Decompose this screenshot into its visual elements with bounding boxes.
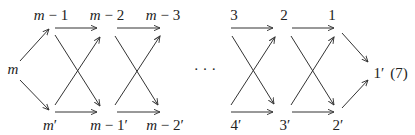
node-3-prime: 3′ — [280, 117, 291, 133]
node-1-prime: 1′ — [374, 65, 385, 81]
node-m-prime: m′ — [43, 117, 57, 133]
node-1: 1 — [328, 7, 336, 23]
arrow-n1-to-n1p — [342, 33, 368, 62]
arrow-m-to-mp — [20, 80, 49, 110]
node-m-minus-3: m − 3 — [146, 7, 180, 23]
node-2-prime: 2′ — [333, 117, 344, 133]
node-m-minus-2-prime: m − 2′ — [146, 117, 184, 133]
node-3: 3 — [230, 7, 238, 23]
node-4-prime: 4′ — [231, 117, 242, 133]
equation-number: (7) — [390, 65, 408, 82]
node-m-minus-2: m − 2 — [90, 7, 124, 23]
ellipsis: · · · — [194, 61, 217, 77]
node-2: 2 — [280, 7, 288, 23]
commutative-diagram: m m − 1 m − 2 m − 3 m′ m − 1′ m − 2′ · ·… — [0, 0, 415, 135]
node-m-minus-1-prime: m − 1′ — [90, 117, 128, 133]
node-m: m — [8, 61, 19, 77]
arrow-n2p-to-n1p — [342, 80, 368, 108]
node-m-minus-1: m − 1 — [34, 7, 68, 23]
arrow-m-to-m1 — [20, 29, 49, 61]
